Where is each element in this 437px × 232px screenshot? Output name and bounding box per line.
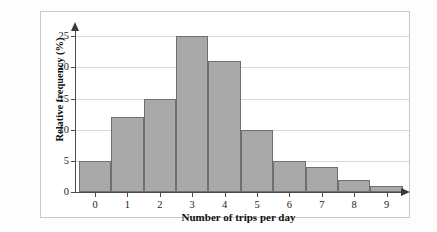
histogram-bar [208,61,240,192]
x-axis-tick-label: 1 [116,199,138,211]
y-axis-tick-mark [71,192,76,193]
x-axis-tick-label: 2 [149,199,171,211]
x-axis-tick-mark [225,193,226,197]
x-axis-tick-mark [95,193,96,197]
histogram-bar [79,161,111,192]
y-axis-tick-mark [71,161,76,162]
histogram-bar [176,36,208,192]
arrow-up-icon [71,22,79,31]
histogram-bar [111,117,143,192]
chart-page: 0510152025 0123456789 Number of trips pe… [0,0,437,232]
arrow-right-icon [401,188,410,196]
histogram-bar [306,167,338,192]
x-axis-tick-label: 4 [214,199,236,211]
histogram-bar [241,130,273,192]
x-axis-tick-mark [160,193,161,197]
y-axis-tick-label: 0 [47,187,69,197]
bars-layer [75,30,409,192]
y-axis-tick-mark [71,99,76,100]
y-axis-tick-mark [71,36,76,37]
x-axis-tick-mark [257,193,258,197]
x-axis-tick-label: 6 [278,199,300,211]
x-axis-title: Number of trips per day [75,211,402,223]
y-axis-tick-mark [71,130,76,131]
x-axis-tick-mark [322,193,323,197]
x-axis-tick-label: 7 [311,199,333,211]
x-axis-tick-mark [127,193,128,197]
x-axis-tick-label: 3 [181,199,203,211]
x-axis-line [75,192,402,193]
x-axis-tick-label: 0 [84,199,106,211]
x-axis-tick-label: 9 [376,199,398,211]
x-axis-tick-mark [354,193,355,197]
x-axis-tick-mark [387,193,388,197]
y-axis-title: Relative frequency (%) [54,15,65,165]
x-axis-tick-mark [289,193,290,197]
y-axis-tick-mark [71,67,76,68]
x-axis-tick-mark [192,193,193,197]
histogram-bar [338,180,370,192]
x-axis-tick-label: 8 [343,199,365,211]
y-axis-line [75,30,76,193]
histogram-bar [144,99,176,192]
figure-frame: 0510152025 0123456789 Number of trips pe… [40,11,410,218]
x-axis-tick-label: 5 [246,199,268,211]
histogram-bar [273,161,305,192]
